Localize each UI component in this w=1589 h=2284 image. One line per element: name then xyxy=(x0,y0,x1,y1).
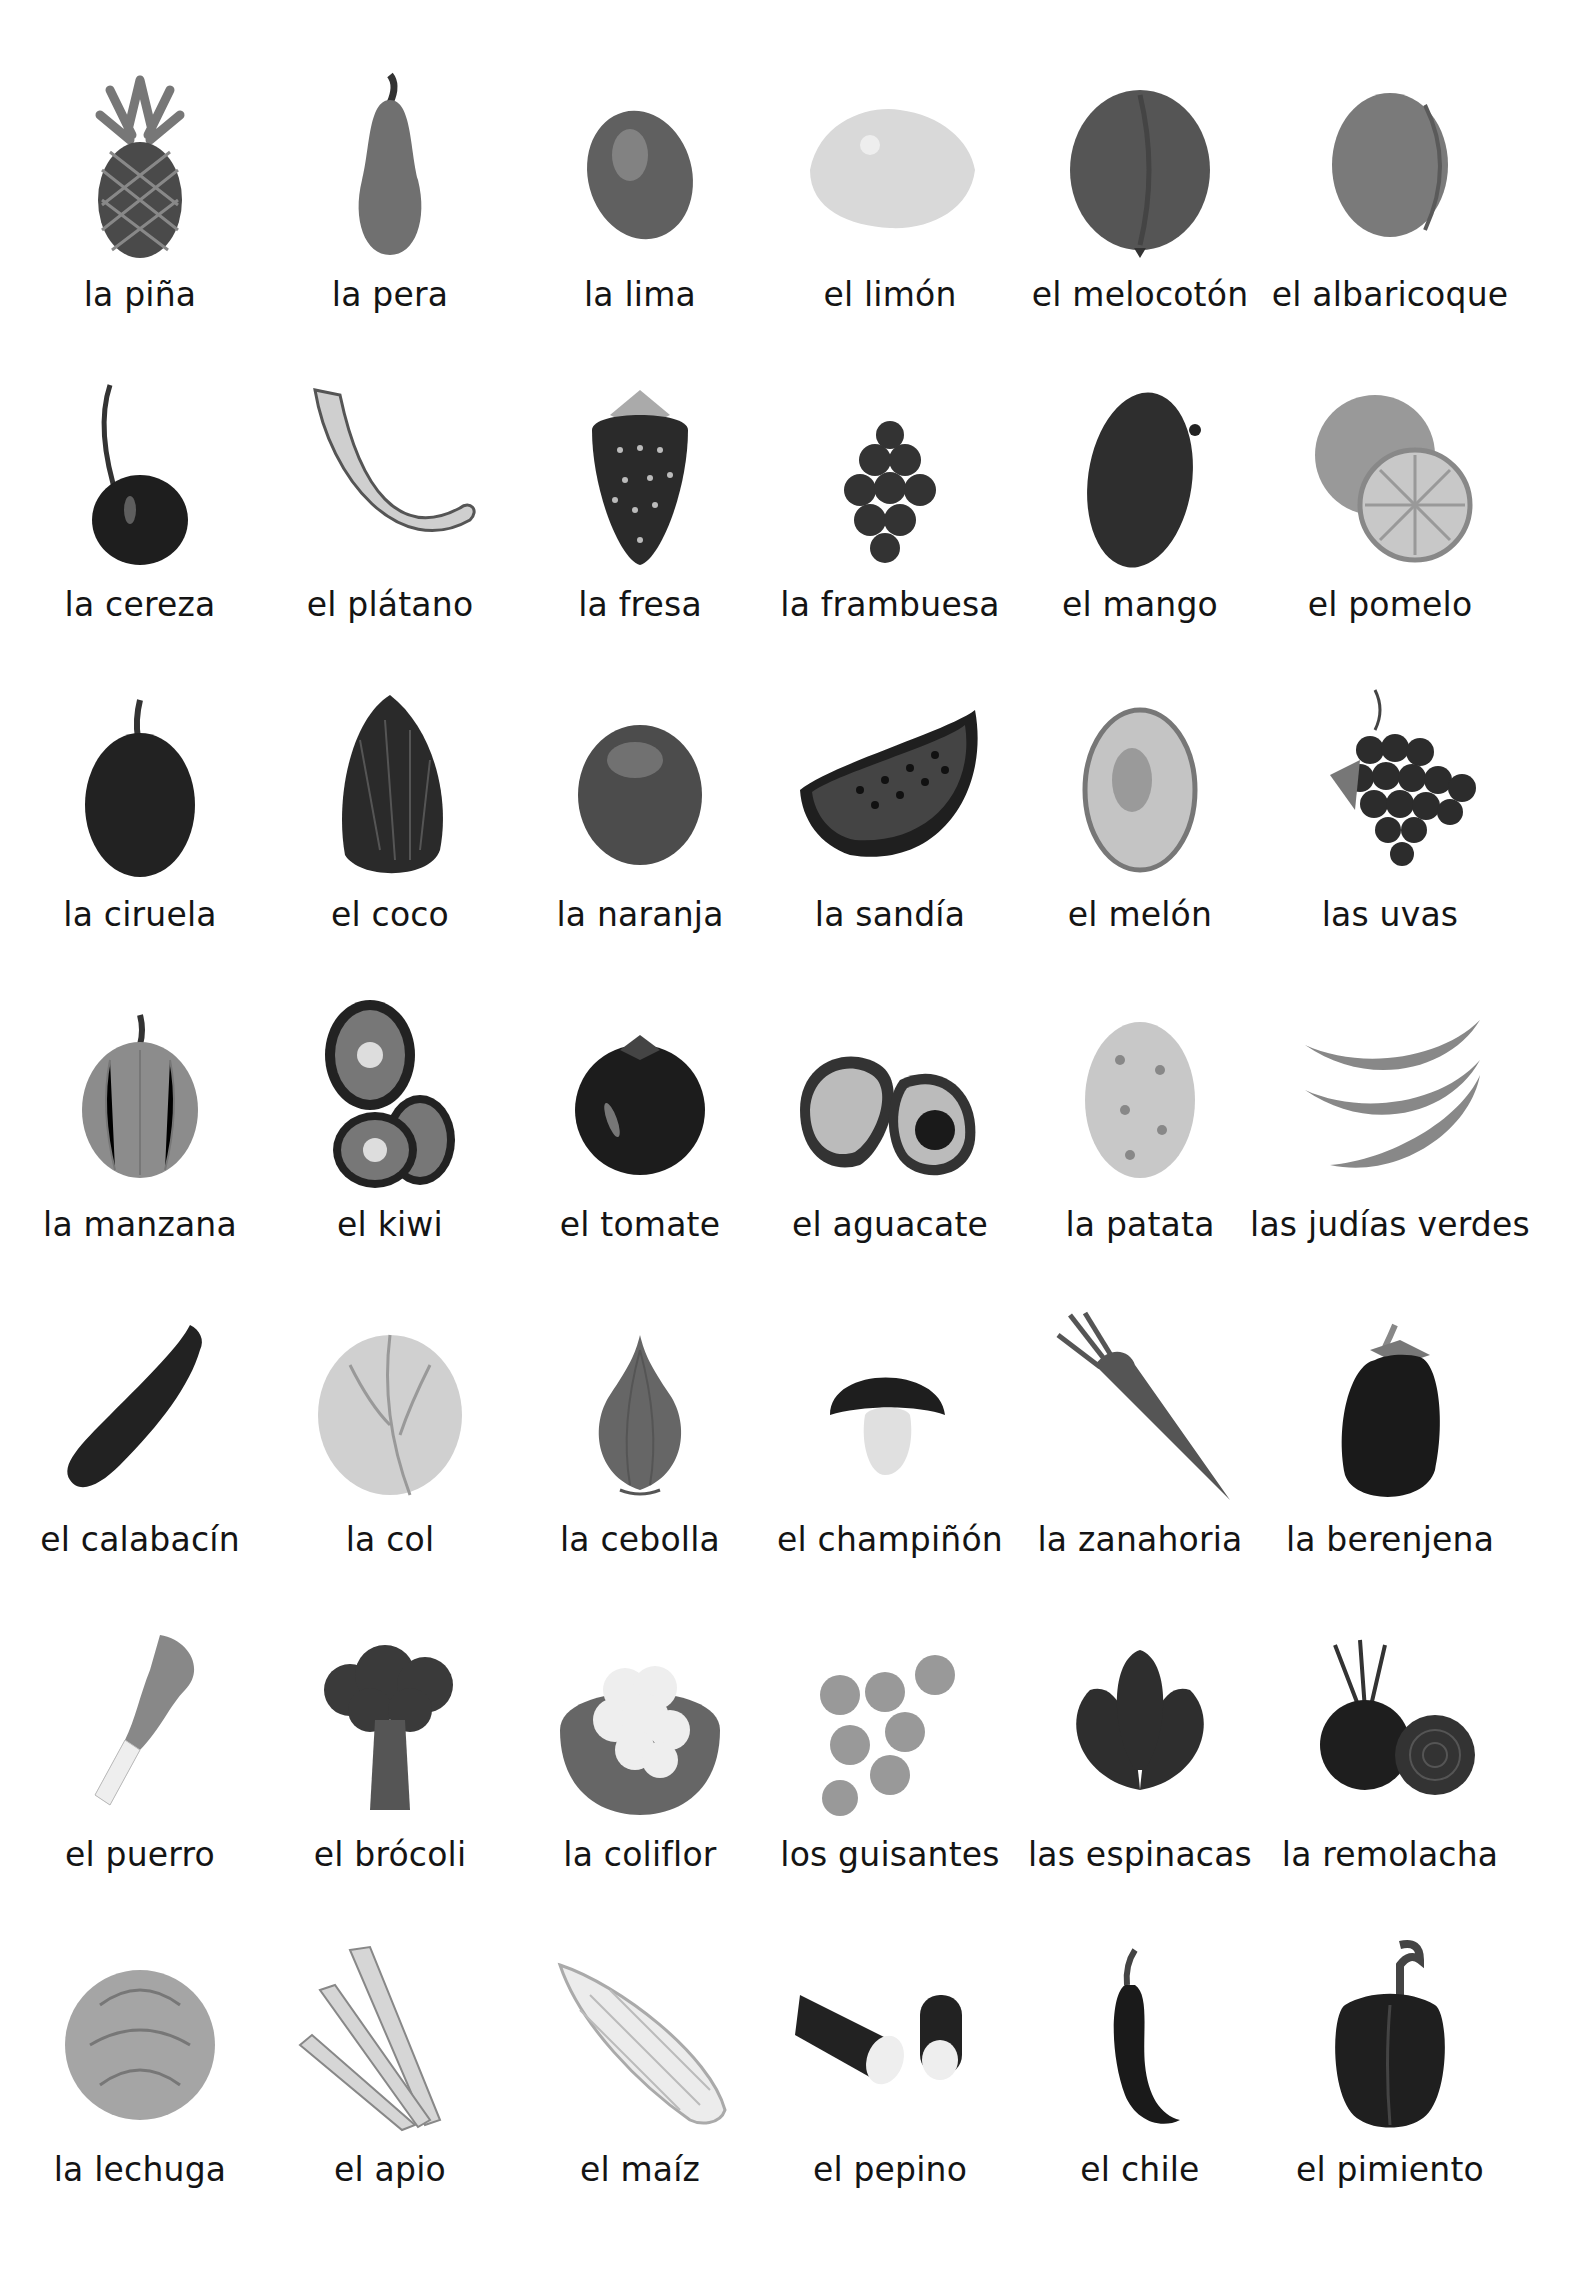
carrot-icon xyxy=(1040,1305,1240,1505)
vocab-card: el kiwi xyxy=(270,950,510,1260)
celery-icon xyxy=(290,1935,490,2135)
vocab-card: el chile xyxy=(1020,1895,1260,2205)
bell-pepper-icon xyxy=(1290,1935,1490,2135)
green-beans-icon xyxy=(1290,990,1490,1190)
vocab-card: las espinacas xyxy=(1020,1580,1260,1890)
vocab-card: el puerro xyxy=(20,1580,260,1890)
vocab-label: la frambuesa xyxy=(750,585,1030,624)
apple-icon xyxy=(40,990,240,1190)
vocab-card: la cereza xyxy=(20,330,260,640)
vocab-label: las judías verdes xyxy=(1250,1205,1530,1244)
vocab-label: la patata xyxy=(1000,1205,1280,1244)
vocab-card: la ciruela xyxy=(20,640,260,950)
vocab-card: la col xyxy=(270,1265,510,1575)
zucchini-icon xyxy=(40,1305,240,1505)
vocab-card: la naranja xyxy=(520,640,760,950)
mango-icon xyxy=(1040,370,1240,570)
cherry-icon xyxy=(40,370,240,570)
vocab-label: el coco xyxy=(250,895,530,934)
grapefruit-icon xyxy=(1290,370,1490,570)
vocab-label: el pomelo xyxy=(1250,585,1530,624)
vocab-card: la berenjena xyxy=(1270,1265,1510,1575)
vocab-label: la naranja xyxy=(500,895,780,934)
vocab-card: el plátano xyxy=(270,330,510,640)
vocab-card: la pera xyxy=(270,20,510,330)
tomato-icon xyxy=(540,990,740,1190)
vocab-label: el chile xyxy=(1000,2150,1280,2189)
vocab-card: la sandía xyxy=(770,640,1010,950)
vocab-label: el pepino xyxy=(750,2150,1030,2189)
vocab-card: las judías verdes xyxy=(1270,950,1510,1260)
broccoli-icon xyxy=(290,1620,490,1820)
cabbage-icon xyxy=(290,1305,490,1505)
vocab-card: el tomate xyxy=(520,950,760,1260)
spinach-icon xyxy=(1040,1620,1240,1820)
onion-icon xyxy=(540,1305,740,1505)
potato-icon xyxy=(1040,990,1240,1190)
vocab-card: el melón xyxy=(1020,640,1260,950)
eggplant-icon xyxy=(1290,1305,1490,1505)
vocab-card: la zanahoria xyxy=(1020,1265,1260,1575)
cucumber-icon xyxy=(790,1935,990,2135)
vocab-label: la coliflor xyxy=(500,1835,780,1874)
vocab-card: el maíz xyxy=(520,1895,760,2205)
lime-icon xyxy=(540,60,740,260)
vocab-label: la cebolla xyxy=(500,1520,780,1559)
vocab-label: la lima xyxy=(500,275,780,314)
strawberry-icon xyxy=(540,370,740,570)
beetroot-icon xyxy=(1290,1620,1490,1820)
vocab-label: el puerro xyxy=(0,1835,280,1874)
peach-icon xyxy=(1040,60,1240,260)
vocab-label: las espinacas xyxy=(1000,1835,1280,1874)
raspberry-icon xyxy=(790,370,990,570)
vocab-card: el calabacín xyxy=(20,1265,260,1575)
peas-icon xyxy=(790,1620,990,1820)
cauliflower-icon xyxy=(540,1620,740,1820)
vocab-label: el tomate xyxy=(500,1205,780,1244)
vocab-label: la remolacha xyxy=(1250,1835,1530,1874)
vocab-label: el limón xyxy=(750,275,1030,314)
vocab-card: el pimiento xyxy=(1270,1895,1510,2205)
vocab-label: la sandía xyxy=(750,895,1030,934)
vocab-label: el mango xyxy=(1000,585,1280,624)
apricot-icon xyxy=(1290,60,1490,260)
avocado-icon xyxy=(790,990,990,1190)
vocabulary-grid: la piña la perala limael limónel melocot… xyxy=(0,0,1589,2284)
leek-icon xyxy=(40,1620,240,1820)
vocab-card: la coliflor xyxy=(520,1580,760,1890)
mushroom-icon xyxy=(790,1305,990,1505)
vocab-label: el maíz xyxy=(500,2150,780,2189)
vocab-card: la lechuga xyxy=(20,1895,260,2205)
vocab-label: la berenjena xyxy=(1250,1520,1530,1559)
vocab-card: el limón xyxy=(770,20,1010,330)
melon-icon xyxy=(1040,680,1240,880)
lettuce-icon xyxy=(40,1935,240,2135)
vocab-label: el albaricoque xyxy=(1250,275,1530,314)
vocab-label: el kiwi xyxy=(250,1205,530,1244)
vocab-card: el apio xyxy=(270,1895,510,2205)
vocab-card: el coco xyxy=(270,640,510,950)
vocab-label: la fresa xyxy=(500,585,780,624)
corn-icon xyxy=(540,1935,740,2135)
watermelon-icon xyxy=(790,680,990,880)
vocab-label: el aguacate xyxy=(750,1205,1030,1244)
vocab-label: la col xyxy=(250,1520,530,1559)
vocab-card: las uvas xyxy=(1270,640,1510,950)
vocab-label: el melón xyxy=(1000,895,1280,934)
vocab-label: la lechuga xyxy=(0,2150,280,2189)
vocab-card: la patata xyxy=(1020,950,1260,1260)
vocab-label: el calabacín xyxy=(0,1520,280,1559)
vocab-card: el pepino xyxy=(770,1895,1010,2205)
coconut-icon xyxy=(290,680,490,880)
vocab-label: el melocotón xyxy=(1000,275,1280,314)
vocab-label: la piña xyxy=(0,275,280,314)
chili-icon xyxy=(1040,1935,1240,2135)
vocab-card: la piña xyxy=(20,20,260,330)
kiwi-icon xyxy=(290,990,490,1190)
lemon-icon xyxy=(790,60,990,260)
pineapple-icon xyxy=(40,60,240,260)
vocab-label: la zanahoria xyxy=(1000,1520,1280,1559)
vocab-label: el champiñón xyxy=(750,1520,1030,1559)
vocab-card: el melocotón xyxy=(1020,20,1260,330)
vocab-card: la lima xyxy=(520,20,760,330)
